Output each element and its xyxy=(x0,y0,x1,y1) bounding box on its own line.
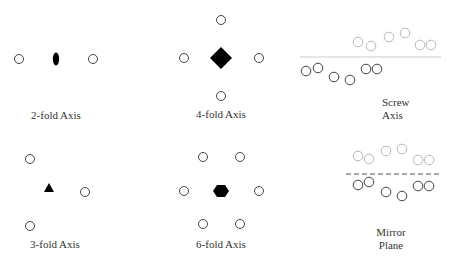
motif-circle xyxy=(26,155,35,164)
motif-circle-dark xyxy=(397,191,407,201)
motif-circle-light xyxy=(400,28,410,38)
motif-circle-light xyxy=(397,144,407,154)
mirror-plane-label-line1: Mirror xyxy=(376,226,405,239)
mirror-plane-label: Mirror Plane xyxy=(376,226,405,252)
hexagon-icon xyxy=(213,185,229,197)
two-fold-axis-panel xyxy=(15,53,98,66)
triangle-icon xyxy=(44,183,54,192)
motif-circle-light xyxy=(364,154,374,164)
motif-circle xyxy=(199,220,208,229)
motif-circle xyxy=(199,153,208,162)
screw-axis-label-line2: Axis xyxy=(382,109,410,122)
motif-circle-light xyxy=(413,155,423,165)
motif-circle-light xyxy=(381,146,391,156)
motif-circle xyxy=(236,220,245,229)
motif-circle-light xyxy=(415,40,425,50)
motif-circle-dark xyxy=(301,66,311,76)
motif-circle xyxy=(236,153,245,162)
motif-circle-light xyxy=(384,32,394,42)
motif-circle-light xyxy=(366,41,376,51)
motif-circle xyxy=(180,187,189,196)
motif-circle xyxy=(255,187,264,196)
symmetry-elements-diagram xyxy=(0,0,455,258)
three-fold-axis-panel xyxy=(26,155,90,231)
four-fold-axis-panel xyxy=(180,16,264,101)
motif-circle xyxy=(180,54,189,63)
motif-circle xyxy=(255,54,264,63)
four-fold-axis-label: 4-fold Axis xyxy=(196,108,246,121)
motif-circle xyxy=(217,16,226,25)
six-fold-axis-label: 6-fold Axis xyxy=(196,238,246,251)
six-fold-axis-panel xyxy=(180,153,264,229)
motif-circle-light xyxy=(353,37,363,47)
motif-circle-dark xyxy=(329,72,339,82)
motif-circle-dark xyxy=(413,181,423,191)
motif-circle xyxy=(89,55,98,64)
mirror-plane-panel xyxy=(346,144,441,201)
two-fold-axis-label: 2-fold Axis xyxy=(31,109,81,122)
motif-circle-dark xyxy=(345,75,355,85)
motif-circle-dark xyxy=(381,187,391,197)
three-fold-axis-label: 3-fold Axis xyxy=(30,238,80,251)
motif-circle-dark xyxy=(313,63,323,73)
motif-circle-dark xyxy=(364,177,374,187)
motif-circle xyxy=(81,188,90,197)
motif-circle-dark xyxy=(424,181,434,191)
screw-axis-label: Screw Axis xyxy=(382,96,410,122)
motif-circle xyxy=(15,55,24,64)
motif-circle-dark xyxy=(353,180,363,190)
motif-circle-light xyxy=(353,151,363,161)
mirror-plane-label-line2: Plane xyxy=(376,239,405,252)
motif-circle-light xyxy=(424,155,434,165)
screw-axis-label-line1: Screw xyxy=(382,96,410,109)
motif-circle-light xyxy=(426,40,436,50)
ellipse-icon xyxy=(53,53,59,66)
diamond-icon xyxy=(210,47,232,69)
motif-circle xyxy=(26,222,35,231)
motif-circle-dark xyxy=(372,64,382,74)
motif-circle xyxy=(217,92,226,101)
screw-axis-panel xyxy=(300,28,441,85)
motif-circle-dark xyxy=(361,64,371,74)
